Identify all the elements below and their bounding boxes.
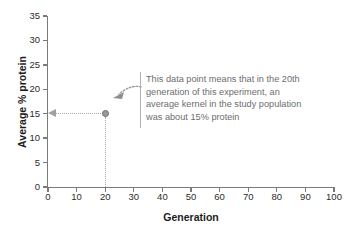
- y-axis-line: [47, 16, 48, 188]
- x-axis-tick-label: 90: [293, 192, 317, 202]
- y-axis-tick-label: 35: [18, 11, 40, 21]
- y-axis-tick: [43, 40, 47, 41]
- callout-arrow-icon: [108, 84, 142, 108]
- y-axis-tick: [43, 113, 47, 114]
- annotation-line-2: generation of this experiment, an: [146, 86, 358, 99]
- annotation-line-4: was about 15% protein: [146, 111, 358, 124]
- annotation-line-1: This data point means that in the 20th: [146, 73, 358, 86]
- x-axis-tick-label: 30: [122, 192, 146, 202]
- x-axis-tick-label: 50: [179, 192, 203, 202]
- protein-generation-chart: 05101520253035 0102030405060708090100 Av…: [0, 0, 364, 236]
- x-axis-tick-label: 70: [236, 192, 260, 202]
- y-axis-title: Average % protein: [16, 37, 28, 167]
- callout-bracket: [140, 72, 141, 128]
- vertical-guide-line: [105, 117, 106, 187]
- annotation-text: This data point means that in the 20thge…: [146, 73, 358, 123]
- y-axis-tick: [43, 137, 47, 138]
- x-axis-tick-label: 40: [150, 192, 174, 202]
- y-axis-tick-label: 0: [18, 182, 40, 192]
- x-axis-tick-label: 60: [208, 192, 232, 202]
- horizontal-guide-line: [55, 113, 103, 114]
- x-axis-tick-label: 20: [93, 192, 117, 202]
- annotation-line-3: average kernel in the study population: [146, 98, 358, 111]
- y-axis-tick: [43, 15, 47, 16]
- y-axis-tick: [43, 64, 47, 65]
- data-point-marker[interactable]: [102, 110, 109, 117]
- y-axis-tick: [43, 89, 47, 90]
- x-axis-tick-label: 10: [65, 192, 89, 202]
- guide-arrowhead-icon: [48, 109, 56, 117]
- x-axis-title: Generation: [47, 211, 335, 223]
- x-axis-tick-label: 80: [265, 192, 289, 202]
- x-axis-tick-label: 100: [322, 192, 346, 202]
- x-axis-tick-label: 0: [36, 192, 60, 202]
- y-axis-tick: [43, 162, 47, 163]
